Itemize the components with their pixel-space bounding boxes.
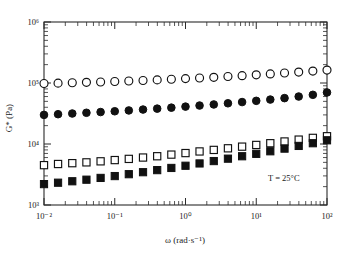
marker-open-square (69, 160, 76, 167)
y-tick-label: 10⁶ (28, 17, 40, 27)
x-tick-label: 10² (321, 211, 333, 221)
marker-open-square (97, 158, 104, 165)
marker-filled-circle (40, 111, 48, 119)
marker-open-circle (323, 66, 331, 74)
marker-filled-square (196, 160, 203, 167)
marker-filled-square (83, 176, 90, 183)
marker-filled-square (54, 179, 61, 186)
marker-filled-square (281, 145, 288, 152)
marker-filled-square (97, 174, 104, 181)
x-tick-label: 10⁻² (36, 211, 53, 221)
marker-open-square (111, 156, 118, 163)
marker-filled-square (111, 172, 118, 179)
marker-filled-circle (83, 109, 91, 117)
marker-filled-square (295, 142, 302, 149)
marker-filled-square (253, 150, 260, 157)
marker-open-square (40, 162, 47, 169)
marker-filled-circle (267, 96, 275, 104)
x-axis-tick-labels: 10⁻²10⁻¹10⁰10¹10² (36, 211, 333, 221)
figure-container: 10³10⁴10⁵10⁶ 10⁻²10⁻¹10⁰10¹10² ω (rad·s⁻… (0, 0, 348, 259)
rheology-scatter-chart: 10³10⁴10⁵10⁶ 10⁻²10⁻¹10⁰10¹10² ω (rad·s⁻… (0, 0, 348, 259)
marker-open-circle (224, 72, 232, 80)
marker-filled-circle (295, 93, 303, 101)
marker-open-circle (125, 77, 133, 85)
marker-open-circle (139, 76, 147, 84)
marker-open-circle (167, 75, 175, 83)
marker-filled-square (182, 162, 189, 169)
y-tick-label: 10³ (28, 200, 40, 210)
marker-filled-square (210, 157, 217, 164)
marker-filled-circle (224, 99, 232, 107)
marker-open-circle (252, 71, 260, 79)
marker-open-square (239, 143, 246, 150)
x-tick-label: 10¹ (251, 211, 263, 221)
marker-filled-circle (281, 94, 289, 102)
marker-filled-circle (54, 110, 62, 118)
marker-open-circle (309, 67, 317, 75)
marker-filled-square (125, 171, 132, 178)
marker-filled-square (168, 164, 175, 171)
marker-open-square (267, 140, 274, 147)
marker-filled-square (239, 153, 246, 160)
marker-open-square (253, 141, 260, 148)
marker-open-square (210, 146, 217, 153)
marker-open-square (139, 154, 146, 161)
y-tick-label: 10⁴ (28, 139, 40, 149)
marker-open-square (168, 151, 175, 158)
marker-open-square (125, 155, 132, 162)
marker-filled-circle (309, 91, 317, 99)
x-tick-label: 10⁻¹ (107, 211, 124, 221)
marker-filled-circle (153, 105, 161, 113)
y-tick-label: 10⁵ (28, 78, 40, 88)
marker-open-circle (111, 77, 119, 85)
marker-filled-square (224, 155, 231, 162)
marker-filled-square (323, 137, 330, 144)
x-axis-title: ω (rad·s⁻¹) (165, 235, 205, 245)
x-tick-label: 10⁰ (179, 211, 192, 221)
y-axis-tick-labels: 10³10⁴10⁵10⁶ (28, 17, 40, 210)
y-axis-title: G* (Pa) (4, 104, 14, 132)
marker-filled-circle (125, 107, 133, 115)
marker-filled-circle (182, 103, 190, 111)
marker-filled-circle (210, 101, 218, 109)
marker-open-circle (266, 70, 274, 78)
marker-filled-circle (252, 97, 260, 105)
marker-open-circle (54, 79, 62, 87)
marker-filled-circle (111, 107, 119, 115)
marker-filled-square (154, 167, 161, 174)
marker-open-circle (68, 79, 76, 87)
marker-open-circle (210, 73, 218, 81)
marker-filled-circle (168, 104, 176, 112)
marker-open-circle (153, 76, 161, 84)
marker-open-circle (281, 69, 289, 77)
marker-open-circle (182, 75, 190, 83)
marker-filled-circle (139, 106, 147, 114)
marker-open-circle (40, 80, 48, 88)
marker-filled-square (40, 181, 47, 188)
marker-open-circle (295, 68, 303, 76)
marker-open-circle (196, 74, 204, 82)
marker-open-square (54, 160, 61, 167)
marker-open-square (154, 153, 161, 160)
marker-filled-square (139, 169, 146, 176)
temperature-annotation: T = 25°C (268, 173, 300, 183)
marker-filled-circle (323, 89, 331, 97)
marker-filled-circle (68, 110, 76, 118)
marker-filled-square (267, 148, 274, 155)
marker-open-square (281, 138, 288, 145)
marker-open-circle (82, 78, 90, 86)
marker-open-square (83, 159, 90, 166)
marker-open-square (196, 148, 203, 155)
marker-open-square (182, 149, 189, 156)
marker-filled-circle (238, 98, 246, 106)
marker-filled-square (309, 140, 316, 147)
marker-open-circle (97, 78, 105, 86)
marker-filled-circle (97, 108, 105, 116)
marker-open-circle (238, 72, 246, 80)
marker-open-square (224, 145, 231, 152)
marker-filled-circle (196, 102, 204, 110)
marker-filled-square (69, 178, 76, 185)
